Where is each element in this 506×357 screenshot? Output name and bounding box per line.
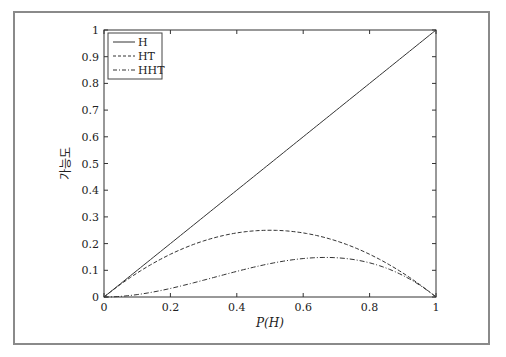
- curve-ht: [104, 230, 436, 297]
- x-tick-label: 0.4: [228, 301, 246, 314]
- likelihood-chart: 00.20.40.60.8100.10.20.30.40.50.60.70.80…: [0, 0, 506, 357]
- x-axis-label: P(H): [255, 316, 284, 330]
- legend-label-h: H: [138, 36, 148, 49]
- y-tick-label: 0.4: [82, 184, 100, 197]
- y-tick-label: 0.8: [82, 77, 100, 90]
- y-tick-label: 1: [92, 24, 99, 37]
- y-tick-label: 0.5: [82, 158, 100, 171]
- x-tick-label: 1: [433, 301, 440, 314]
- y-tick-label: 0.1: [82, 264, 100, 277]
- legend-label-ht: HT: [138, 50, 156, 63]
- y-tick-label: 0.6: [82, 131, 100, 144]
- x-tick-label: 0: [101, 301, 108, 314]
- x-tick-label: 0.8: [361, 301, 379, 314]
- legend-label-hht: HHT: [138, 64, 165, 77]
- y-tick-label: 0.2: [82, 238, 100, 251]
- x-tick-label: 0.2: [162, 301, 180, 314]
- x-tick-label: 0.6: [294, 301, 312, 314]
- y-tick-label: 0.7: [82, 104, 100, 117]
- legend: H HT HHT: [108, 33, 165, 79]
- y-tick-label: 0: [92, 291, 99, 304]
- y-tick-label: 0.3: [82, 211, 100, 224]
- y-axis-label: 가능도: [59, 147, 73, 180]
- y-tick-label: 0.9: [82, 51, 100, 64]
